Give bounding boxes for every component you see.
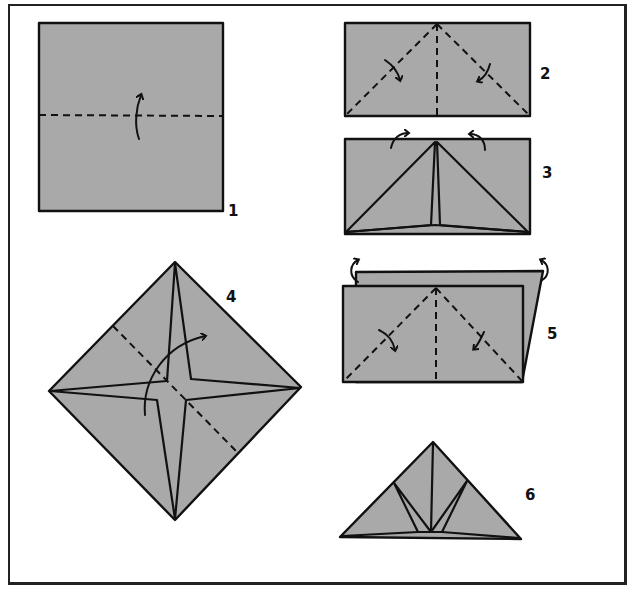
step-5-figure: 5	[343, 260, 557, 382]
origami-diagram: 1 2 3 4 5	[0, 0, 633, 591]
step-1-label: 1	[228, 202, 238, 220]
step-5-label: 5	[547, 325, 557, 343]
step-3-figure: 3	[345, 133, 552, 234]
step-6-label: 6	[525, 486, 535, 504]
step-3-label: 3	[542, 164, 552, 182]
step-2-figure: 2	[345, 23, 550, 116]
step-4-figure: 4	[49, 262, 301, 520]
step-2-label: 2	[540, 65, 550, 83]
step-4-label: 4	[226, 288, 236, 306]
step-6-figure: 6	[340, 442, 535, 539]
front-layer	[343, 286, 523, 382]
square-paper	[39, 23, 223, 211]
step-1-figure: 1	[39, 23, 238, 220]
